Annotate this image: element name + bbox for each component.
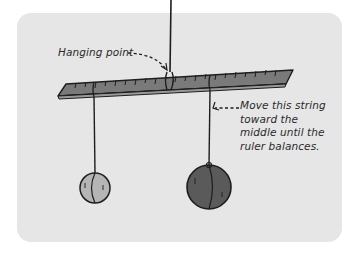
hanging-string bbox=[170, 0, 171, 72]
hanging-point-label: Hanging point bbox=[58, 46, 133, 60]
instruction-line-1: Move this string bbox=[240, 99, 350, 113]
instruction-line-4: ruler balances. bbox=[240, 140, 350, 154]
instruction-label: Move this string toward the middle until… bbox=[240, 99, 350, 153]
light-ball bbox=[80, 173, 110, 203]
heavy-ball bbox=[187, 163, 231, 210]
instruction-line-3: middle until the bbox=[240, 126, 350, 140]
right-string bbox=[209, 90, 210, 165]
left-string bbox=[94, 97, 95, 173]
ruler bbox=[58, 70, 293, 99]
instruction-line-2: toward the bbox=[240, 113, 350, 127]
hanging-point-arrow bbox=[128, 53, 166, 69]
